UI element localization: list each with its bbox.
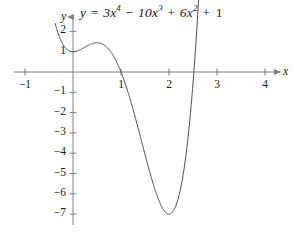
- y-tick-label: −6: [40, 186, 66, 198]
- equation-operator-3: +: [201, 5, 211, 20]
- x-tick-label: 1: [111, 78, 131, 90]
- equation-operator-2: +: [166, 5, 176, 20]
- y-tick-label: −1: [40, 84, 66, 96]
- equation-term2-coef: 10: [138, 5, 152, 20]
- equation-term3-coef: 6: [180, 5, 187, 20]
- x-axis-label: x: [283, 64, 288, 79]
- x-tick-label: 3: [207, 78, 227, 90]
- equation-term3-exponent: 2: [193, 3, 198, 13]
- function-curve: [55, 0, 199, 214]
- function-plot-figure: y = 3x4 − 10x3 + 6x2 + 1 y x −11234 21−1…: [0, 0, 294, 235]
- x-tick-label: 2: [159, 78, 179, 90]
- equation-term2-exponent: 3: [158, 3, 163, 13]
- equation-lhs: y: [80, 5, 86, 20]
- y-tick-label: −3: [40, 125, 66, 137]
- x-tick-label: 4: [255, 78, 275, 90]
- y-tick-label: 2: [40, 23, 66, 35]
- y-tick-label: −2: [40, 105, 66, 117]
- equation-term1-exponent: 4: [116, 3, 121, 13]
- y-tick-label: −4: [40, 145, 66, 157]
- y-tick-label: −5: [40, 166, 66, 178]
- equation-operator-1: −: [125, 5, 135, 20]
- y-tick-label: −7: [40, 206, 66, 218]
- y-axis-label: y: [61, 9, 66, 24]
- equation-label: y = 3x4 − 10x3 + 6x2 + 1: [80, 3, 224, 21]
- y-tick-label: 1: [40, 44, 66, 56]
- x-tick-label: −1: [15, 78, 35, 90]
- equation-constant: 1: [215, 5, 224, 20]
- equation-equals: =: [90, 5, 100, 20]
